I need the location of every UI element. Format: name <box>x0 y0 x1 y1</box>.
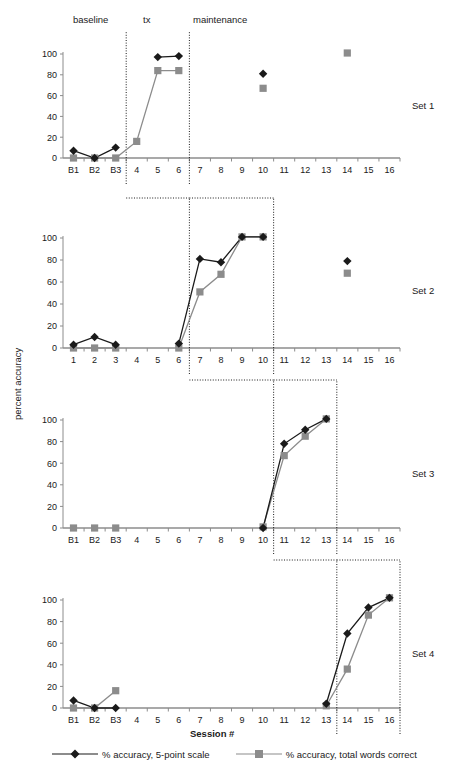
x-tick-label: 1 <box>71 355 76 365</box>
panel-1: 020406080100B1B2B345678910111213141516 <box>42 32 400 184</box>
data-point-diamond <box>259 70 267 78</box>
y-tick-label: 80 <box>47 70 57 80</box>
x-tick-label: 9 <box>240 355 245 365</box>
y-tick-label: 40 <box>47 660 57 670</box>
data-point-diamond <box>175 52 183 60</box>
x-tick-label: 12 <box>300 535 310 545</box>
y-tick-label: 20 <box>47 321 57 331</box>
x-tick-label: 5 <box>155 715 160 725</box>
x-tick-label: 8 <box>218 715 223 725</box>
x-tick-label: 10 <box>258 355 268 365</box>
y-tick-label: 0 <box>52 703 57 713</box>
data-point-square <box>365 612 372 619</box>
data-point-square <box>70 524 77 531</box>
y-tick-label: 100 <box>42 595 57 605</box>
data-point-square <box>344 666 351 673</box>
legend-item-diamond: % accuracy, 5-point scale <box>52 748 210 760</box>
x-tick-label: 11 <box>279 165 288 175</box>
y-tick-label: 80 <box>47 617 57 627</box>
x-tick-label: 7 <box>197 535 202 545</box>
x-tick-label: 3 <box>113 355 118 365</box>
x-tick-label: B1 <box>68 535 79 545</box>
x-tick-label: 11 <box>279 355 288 365</box>
x-tick-label: 15 <box>363 355 373 365</box>
series-line <box>263 419 326 528</box>
x-tick-label: 5 <box>155 535 160 545</box>
data-point-square <box>91 344 98 351</box>
x-tick-label: 4 <box>134 165 139 175</box>
data-point-square <box>196 288 203 295</box>
x-tick-label: B3 <box>110 535 121 545</box>
data-point-square <box>281 452 288 459</box>
y-tick-label: 20 <box>47 502 57 512</box>
x-tick-label: 5 <box>155 355 160 365</box>
data-point-diamond <box>196 255 204 263</box>
y-tick-label: 0 <box>52 523 57 533</box>
y-tick-label: 100 <box>42 49 57 59</box>
x-tick-label: 6 <box>176 355 181 365</box>
data-point-square <box>175 67 182 74</box>
x-tick-label: 4 <box>134 355 139 365</box>
legend-label-diamond: % accuracy, 5-point scale <box>102 749 210 760</box>
data-point-square <box>112 524 119 531</box>
x-tick-label: 15 <box>363 715 373 725</box>
data-point-diamond <box>154 53 162 61</box>
x-tick-label: 16 <box>384 165 394 175</box>
x-tick-label: 8 <box>218 165 223 175</box>
y-tick-label: 60 <box>47 639 57 649</box>
y-tick-label: 100 <box>42 415 57 425</box>
x-tick-label: 9 <box>240 165 245 175</box>
data-point-square <box>70 154 77 161</box>
x-tick-label: 9 <box>240 715 245 725</box>
y-tick-label: 40 <box>47 299 57 309</box>
data-point-diamond <box>111 704 119 712</box>
x-tick-label: 12 <box>300 165 310 175</box>
data-point-diamond <box>69 147 77 155</box>
x-tick-label: 14 <box>342 355 352 365</box>
data-point-diamond <box>69 696 77 704</box>
y-tick-label: 60 <box>47 459 57 469</box>
legend-marker-diamond-icon <box>52 748 98 760</box>
x-tick-label: B1 <box>68 165 79 175</box>
data-point-square <box>217 271 224 278</box>
x-tick-label: 14 <box>342 715 352 725</box>
series-line <box>326 598 389 706</box>
x-tick-label: 8 <box>218 535 223 545</box>
x-tick-label: 13 <box>321 165 331 175</box>
x-tick-label: 15 <box>363 165 373 175</box>
x-tick-label: 6 <box>176 535 181 545</box>
x-tick-label: 7 <box>197 715 202 725</box>
x-tick-label: 4 <box>134 715 139 725</box>
y-tick-label: 0 <box>52 343 57 353</box>
x-tick-label: 11 <box>279 535 288 545</box>
data-point-square <box>133 138 140 145</box>
x-tick-label: 12 <box>300 715 310 725</box>
data-point-square <box>91 524 98 531</box>
x-tick-label: 7 <box>197 165 202 175</box>
x-tick-label: B2 <box>89 165 100 175</box>
x-tick-label: 16 <box>384 355 394 365</box>
x-tick-label: 16 <box>384 715 394 725</box>
series-line <box>326 598 389 704</box>
legend-item-square: % accuracy, total words correct <box>236 748 417 760</box>
data-point-square <box>70 704 77 711</box>
y-tick-label: 40 <box>47 112 57 122</box>
y-tick-label: 40 <box>47 480 57 490</box>
data-point-diamond <box>90 333 98 341</box>
data-point-square <box>260 85 267 92</box>
y-tick-label: 20 <box>47 682 57 692</box>
chart-canvas: 020406080100B1B2B34567891011121314151602… <box>0 0 469 778</box>
x-tick-label: 4 <box>134 535 139 545</box>
x-tick-label: 10 <box>258 535 268 545</box>
x-tick-label: B3 <box>110 715 121 725</box>
data-point-square <box>112 687 119 694</box>
y-tick-label: 60 <box>47 277 57 287</box>
legend-label-square: % accuracy, total words correct <box>286 749 417 760</box>
y-tick-label: 20 <box>47 133 57 143</box>
x-tick-label: 8 <box>218 355 223 365</box>
y-tick-label: 0 <box>52 153 57 163</box>
panel-4: 020406080100B1B2B345678910111213141516 <box>42 560 400 734</box>
x-tick-label: 13 <box>321 715 331 725</box>
x-tick-label: 9 <box>240 535 245 545</box>
x-tick-label: 14 <box>342 165 352 175</box>
